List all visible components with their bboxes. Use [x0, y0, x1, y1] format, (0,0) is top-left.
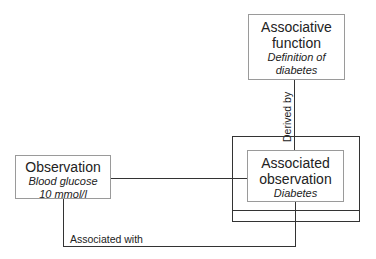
- node-subtitle: Blood glucose: [16, 175, 110, 188]
- associated-observation-node: Associated observation Diabetes: [247, 150, 344, 202]
- observation-node: Observation Blood glucose 10 mmol/l: [15, 155, 111, 199]
- node-title: Observation: [16, 159, 110, 175]
- node-subtitle: diabetes: [249, 64, 344, 77]
- derived-by-inner-line: [294, 136, 295, 150]
- associative-function-node: Associative function Definition of diabe…: [248, 14, 345, 80]
- container-inner-join: [232, 178, 247, 179]
- edge-observation-to-outer-line: [111, 178, 247, 179]
- container-divider: [232, 210, 360, 211]
- node-title: observation: [248, 171, 343, 187]
- node-title: Associative: [249, 19, 344, 35]
- node-title: function: [249, 35, 344, 51]
- node-subtitle: 10 mmol/l: [16, 188, 110, 201]
- node-subtitle: Diabetes: [248, 187, 343, 200]
- edge-associated-with-horizontal: [63, 246, 296, 247]
- node-title: Associated: [248, 155, 343, 171]
- associated-with-label: Associated with: [70, 233, 143, 245]
- node-subtitle: Definition of: [249, 51, 344, 64]
- derived-by-label: Derived by: [281, 92, 293, 142]
- edge-associated-with-vertical-left: [63, 199, 64, 247]
